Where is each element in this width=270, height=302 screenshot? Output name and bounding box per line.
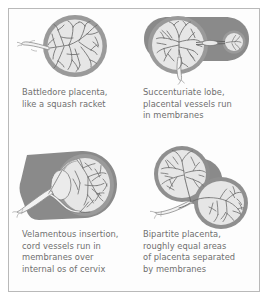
velamentous-insertion-illustration [9,141,133,233]
battledore-placenta-illustration [9,9,133,87]
bipartite-placenta-illustration [133,141,261,233]
panel-succenturiate-lobe: Succenturiate lobe, placental vessels ru… [133,9,261,141]
panel-bipartite-placenta: Bipartite placenta, roughly equal areas … [133,141,261,293]
caption-velamentous-insertion: Velamentous insertion, cord vessels run … [9,229,146,275]
placenta-variants-figure: Battledore placenta, like a squash racke… [8,8,260,292]
umbilical-cord [150,201,193,219]
panel-battledore-placenta: Battledore placenta, like a squash racke… [9,9,133,141]
caption-battledore-placenta: Battledore placenta, like a squash racke… [9,87,146,110]
succenturiate-lobe-illustration [133,9,261,87]
panel-velamentous-insertion: Velamentous insertion, cord vessels run … [9,141,133,293]
caption-bipartite-placenta: Bipartite placenta, roughly equal areas … [133,229,270,275]
caption-succenturiate-lobe: Succenturiate lobe, placental vessels ru… [133,87,270,122]
accessory-lobe [223,31,246,54]
